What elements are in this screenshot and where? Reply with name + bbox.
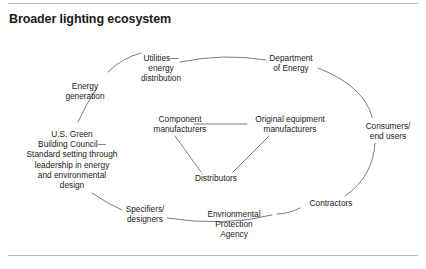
connector-specifiers-to-usgbc [92,193,122,210]
footer-divider-bottom [8,255,418,256]
node-component-manufacturers: Component manufacturers [153,114,206,134]
node-distributors: Distributors [195,173,237,183]
connector-utilities-to-department-of-energy [180,57,266,62]
connector-oem-to-distributors [233,136,269,172]
node-contractors: Contractors [310,198,353,208]
connector-energy-generation-to-utilities [108,53,141,72]
connector-contractors-to-epa [277,208,300,214]
node-original-equipment-manufacturers: Original equipment manufacturers [255,114,325,134]
node-energy-generation: Energy generation [65,81,104,101]
node-consumers-end-users: Consumers/ end users [366,121,411,141]
node-utilities: Utilities— energy distribution [141,53,181,84]
node-specifiers-designers: Specifiers/ designers [126,204,165,224]
connector-consumers-to-contractors [345,143,375,196]
connector-department-of-energy-to-consumers [318,68,372,117]
connector-component-manufacturers-to-distributors [175,136,201,172]
node-department-of-energy: Department of Energy [269,53,312,73]
node-epa: Envrionmental Protection Agency [207,209,260,240]
diagram-page: Broader lighting ecosystem Utilities— en… [0,0,426,269]
node-usgbc: U.S. Green Building Council— Standard se… [27,129,118,190]
